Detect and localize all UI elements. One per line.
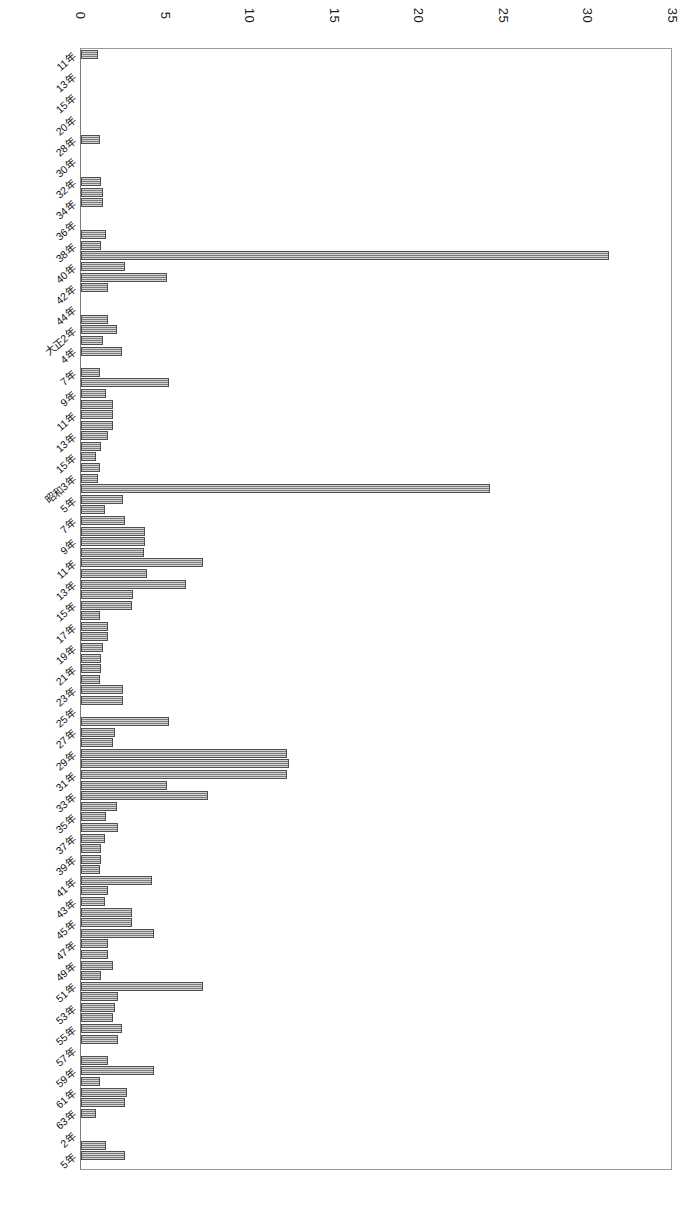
category-axis-tick: 11年: [54, 50, 78, 73]
bar: [81, 622, 108, 631]
bar: [81, 273, 167, 282]
category-axis-tick: 30年: [54, 156, 78, 179]
category-axis-tick: 29年: [54, 749, 78, 772]
category-axis-tick: 11年: [54, 410, 78, 433]
bar: [81, 961, 113, 970]
bar: [81, 474, 98, 483]
category-axis-tick: 7年: [58, 368, 78, 387]
bar: [81, 421, 113, 430]
bar: [81, 368, 100, 377]
category-axis-tick: 47年: [54, 940, 78, 963]
bar: [81, 1098, 125, 1107]
bar: [81, 378, 169, 387]
bar: [81, 770, 287, 779]
bar: [81, 431, 108, 440]
bar: [81, 537, 145, 546]
category-axis-tick: 13年: [54, 580, 78, 603]
category-axis-tick: 7年: [58, 516, 78, 535]
value-axis-tick: 25: [495, 0, 510, 33]
category-axis-tick: 61年: [54, 1088, 78, 1111]
category-axis-tick: 17年: [54, 622, 78, 645]
category-axis-tick: 55年: [54, 1024, 78, 1047]
bar: [81, 834, 105, 843]
bar: [81, 452, 96, 461]
bar: [81, 738, 113, 747]
category-axis-tick: 19年: [54, 643, 78, 666]
bar: [81, 632, 108, 641]
category-axis-tick: 27年: [54, 728, 78, 751]
category-axis-tick: 59年: [54, 1067, 78, 1090]
category-axis-tick: 33年: [54, 791, 78, 814]
bar: [81, 315, 108, 324]
bar: [81, 1035, 118, 1044]
bar: [81, 198, 103, 207]
category-axis-tick: 15年: [54, 93, 78, 116]
bar: [81, 918, 132, 927]
bar: [81, 992, 118, 1001]
bar: [81, 855, 101, 864]
value-axis-tick: 15: [326, 0, 341, 33]
bar: [81, 1151, 125, 1160]
bar: [81, 1003, 115, 1012]
category-axis-tick: 9年: [58, 537, 78, 556]
bar: [81, 717, 169, 726]
bar: [81, 251, 609, 260]
category-axis-tick: 41年: [54, 876, 78, 899]
bar: [81, 484, 490, 493]
bar: [81, 1141, 106, 1150]
category-axis-tick: 34年: [54, 199, 78, 222]
category-axis-tick: 45年: [54, 918, 78, 941]
bar: [81, 442, 101, 451]
bar: [81, 802, 117, 811]
bar: [81, 527, 145, 536]
bar: [81, 611, 100, 620]
bar: [81, 929, 154, 938]
bar: [81, 728, 115, 737]
bar: [81, 685, 123, 694]
category-axis-tick: 5年: [58, 495, 78, 514]
category-axis-tick: 42年: [54, 283, 78, 306]
bar: [81, 876, 152, 885]
bar: [81, 241, 101, 250]
category-axis-tick: 31年: [54, 770, 78, 793]
value-axis-tick: 5: [157, 0, 172, 33]
category-axis-tick: 28年: [54, 135, 78, 158]
category-axis-tick: 13年: [54, 431, 78, 454]
bar: [81, 283, 108, 292]
bar: [81, 812, 106, 821]
category-axis-tick: 44年: [54, 304, 78, 327]
category-axis-tick: 32年: [54, 177, 78, 200]
bar: [81, 410, 113, 419]
bar: [81, 590, 133, 599]
bar: [81, 971, 101, 980]
bar: [81, 823, 118, 832]
bar: [81, 177, 101, 186]
plot-area: [80, 48, 672, 1170]
category-axis-tick: 49年: [54, 961, 78, 984]
category-axis-tick: 57年: [54, 1045, 78, 1068]
category-axis-tick: 15年: [54, 453, 78, 476]
category-axis-tick: 13年: [54, 72, 78, 95]
bar: [81, 1024, 122, 1033]
bar: [81, 781, 167, 790]
bar: [81, 336, 103, 345]
category-axis-tick: 51年: [54, 982, 78, 1005]
category-axis-tick: 36年: [54, 220, 78, 243]
bar: [81, 230, 106, 239]
bar: [81, 1077, 100, 1086]
category-axis-tick: 38年: [54, 241, 78, 264]
value-axis-tick: 30: [580, 0, 595, 33]
bar: [81, 580, 186, 589]
category-axis-tick: 40年: [54, 262, 78, 285]
bar: [81, 516, 125, 525]
category-axis-tick: 11年: [54, 558, 78, 581]
bar: [81, 1109, 96, 1118]
bar: [81, 1088, 127, 1097]
category-axis-tick: 23年: [54, 685, 78, 708]
category-axis-tick: 63年: [54, 1109, 78, 1132]
category-axis-tick: 9年: [58, 389, 78, 408]
bar: [81, 1056, 108, 1065]
bar: [81, 325, 117, 334]
bar: [81, 939, 108, 948]
bar: [81, 347, 122, 356]
